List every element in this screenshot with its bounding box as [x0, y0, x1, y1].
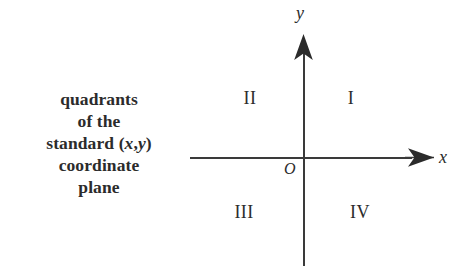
quadrant-label-iv: IV — [338, 202, 382, 223]
quadrant-label-ii: II — [228, 88, 272, 109]
quadrant-label-i: I — [329, 88, 373, 109]
x-axis-line — [190, 157, 412, 159]
x-axis-label: x — [439, 147, 447, 168]
y-axis-label: y — [296, 3, 304, 24]
quadrant-label-iii: III — [222, 202, 266, 223]
origin-label: O — [284, 160, 296, 178]
y-axis-line — [303, 46, 305, 266]
x-axis-arrowhead-icon — [405, 147, 435, 168]
coordinate-axes-diagram: x y O II I III IV — [0, 0, 461, 277]
figure-coordinate-plane: quadrants of the standard (x,y) coordina… — [0, 0, 461, 277]
y-axis-arrowhead-icon — [293, 33, 314, 63]
